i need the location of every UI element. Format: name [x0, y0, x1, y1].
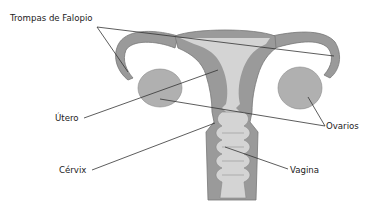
label-ovarios: Ovarios — [326, 122, 359, 131]
right-ovary — [278, 67, 322, 109]
leader-cervix — [92, 123, 215, 170]
label-utero: Útero — [55, 114, 79, 123]
female-reproductive-diagram — [0, 0, 376, 213]
label-cervix: Cérvix — [59, 166, 86, 175]
label-trompas-de-falopio: Trompas de Falopio — [10, 14, 93, 23]
label-vagina: Vagina — [290, 166, 319, 175]
